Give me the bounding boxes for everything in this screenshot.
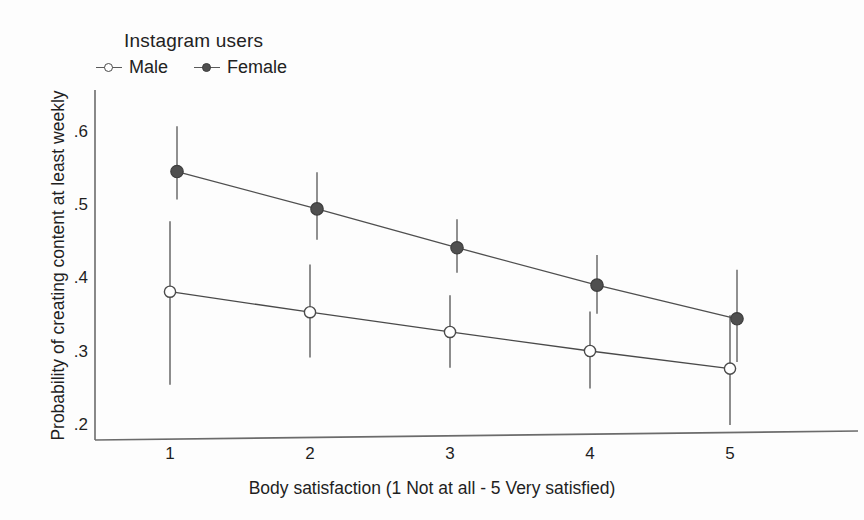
series-male: [164, 221, 735, 425]
data-point-open: [164, 286, 175, 297]
data-point-filled: [591, 279, 603, 291]
data-point-open: [304, 307, 315, 318]
plot-area: [0, 0, 864, 520]
chart-figure: Instagram users Male Female Probability …: [0, 0, 864, 520]
data-point-filled: [311, 203, 323, 215]
data-point-filled: [451, 242, 463, 254]
data-point-filled: [731, 313, 743, 325]
data-point-open: [584, 345, 595, 356]
series-female: [171, 126, 743, 362]
data-point-open: [724, 363, 735, 374]
data-point-filled: [171, 165, 183, 177]
x-axis-line: [95, 431, 858, 440]
series-layer: [164, 126, 743, 425]
data-point-open: [444, 326, 455, 337]
